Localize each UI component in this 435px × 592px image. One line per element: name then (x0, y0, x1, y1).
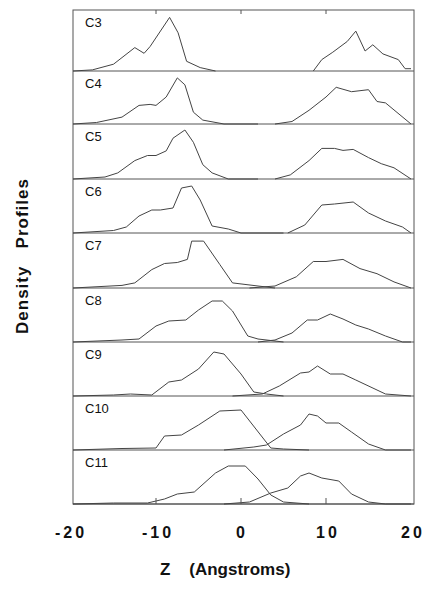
panel-label: C8 (85, 293, 102, 308)
panel-label: C9 (85, 347, 102, 362)
profile-panels: C3C4C5C6C7C8C9C10C11 (73, 15, 414, 504)
panel-label: C10 (85, 401, 109, 416)
density-curve-left (73, 466, 309, 504)
panel-label: C5 (85, 129, 102, 144)
x-axis-ticks (156, 10, 326, 504)
panel-c3: C3 (73, 15, 414, 71)
panel-c4: C4 (73, 76, 414, 124)
panel-c5: C5 (73, 129, 414, 179)
density-curve-right (275, 148, 411, 179)
panel-c10: C10 (73, 401, 414, 450)
panel-c6: C6 (73, 184, 414, 233)
density-curve-right (313, 31, 411, 71)
density-profiles-chart: C3C4C5C6C7C8C9C10C11 (0, 0, 435, 592)
density-curve-right (224, 473, 411, 504)
panel-c8: C8 (73, 293, 414, 342)
panel-label: C6 (85, 184, 102, 199)
density-curve-right (275, 87, 411, 124)
density-curve-left (73, 186, 284, 233)
y-axis-label: Density Profiles (13, 178, 33, 334)
density-curve-right (224, 414, 411, 450)
density-curve-left (73, 241, 275, 288)
density-curve-right (288, 202, 411, 233)
density-curve-left (73, 301, 284, 342)
panel-c7: C7 (73, 238, 414, 288)
panel-label: C11 (85, 455, 108, 470)
density-curve-right (258, 314, 411, 342)
density-curve-left (73, 352, 284, 396)
plot-frame (73, 10, 414, 504)
x-tick-label-neg20: -20 (55, 524, 87, 542)
x-axis-label: Z (Angstroms) (160, 560, 290, 580)
plot-border (73, 10, 414, 504)
x-tick-label-20: 20 (401, 524, 425, 542)
panel-label: C3 (85, 15, 102, 30)
panel-c9: C9 (73, 347, 414, 396)
x-tick-label-0: 0 (236, 524, 248, 542)
x-tick-label-neg10: -10 (142, 524, 174, 542)
density-curve-right (233, 366, 412, 396)
panel-label: C4 (85, 76, 102, 91)
density-curve-left (73, 410, 309, 450)
density-curve-right (250, 259, 412, 288)
x-tick-label-10: 10 (316, 524, 340, 542)
panel-label: C7 (85, 238, 102, 253)
panel-c11: C11 (73, 455, 414, 504)
